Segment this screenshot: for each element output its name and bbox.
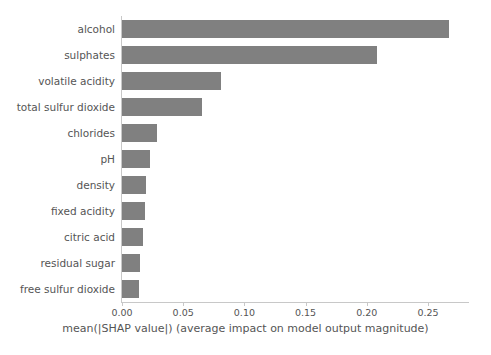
- bar: [122, 176, 146, 194]
- x-tick-mark: [244, 302, 245, 306]
- x-tick-mark: [183, 302, 184, 306]
- x-tick-mark: [367, 302, 368, 306]
- x-tick-label: 0.10: [234, 307, 255, 318]
- x-tick-mark: [306, 302, 307, 306]
- bar: [122, 254, 140, 272]
- y-tick-label: free sulfur dioxide: [0, 276, 115, 302]
- bar: [122, 280, 139, 298]
- x-tick-mark: [122, 302, 123, 306]
- y-tick-label: total sulfur dioxide: [0, 94, 115, 120]
- x-tick-label: 0.25: [417, 307, 438, 318]
- x-tick-label: 0.05: [173, 307, 194, 318]
- x-axis-ticks: 0.000.050.100.150.200.25: [0, 302, 491, 322]
- bar: [122, 46, 377, 64]
- y-tick-label: density: [0, 172, 115, 198]
- plot-area: [122, 16, 469, 302]
- x-tick-label: 0.00: [111, 307, 132, 318]
- bar: [122, 20, 449, 38]
- y-tick-label: alcohol: [0, 16, 115, 42]
- y-tick-label: citric acid: [0, 224, 115, 250]
- y-axis-tick-labels: alcoholsulphatesvolatile aciditytotal su…: [0, 16, 115, 302]
- x-tick-label: 0.20: [356, 307, 377, 318]
- y-tick-label: sulphates: [0, 42, 115, 68]
- bar: [122, 124, 157, 142]
- y-tick-label: chlorides: [0, 120, 115, 146]
- bar: [122, 98, 202, 116]
- y-tick-label: volatile acidity: [0, 68, 115, 94]
- y-tick-label: pH: [0, 146, 115, 172]
- shap-feature-importance-chart: alcoholsulphatesvolatile aciditytotal su…: [0, 0, 491, 355]
- x-axis-title: mean(|SHAP value|) (average impact on mo…: [0, 322, 491, 335]
- y-tick-label: residual sugar: [0, 250, 115, 276]
- y-tick-label: fixed acidity: [0, 198, 115, 224]
- x-tick-mark: [428, 302, 429, 306]
- bar: [122, 72, 221, 90]
- x-tick-label: 0.15: [295, 307, 316, 318]
- bar: [122, 228, 143, 246]
- bar: [122, 150, 150, 168]
- bar: [122, 202, 145, 220]
